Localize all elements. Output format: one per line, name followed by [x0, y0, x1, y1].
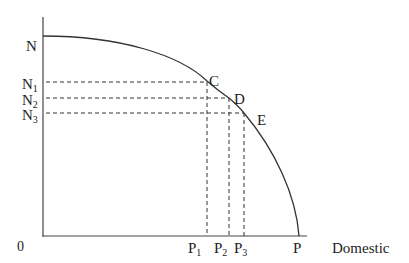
label-n: N: [26, 38, 37, 54]
origin-label: 0: [17, 239, 24, 254]
label-p3: P3: [234, 240, 247, 258]
label-p1: P1: [188, 240, 201, 258]
x-axis-title: Domestic: [332, 240, 390, 256]
point-e-label: E: [257, 112, 266, 128]
label-p2: P2: [214, 240, 227, 258]
point-d-label: D: [234, 91, 245, 107]
ppf-curve: [43, 36, 299, 236]
point-c-label: C: [209, 73, 219, 89]
ppf-diagram: N N1 N2 N3 C D E 0 P1 P2 P3 P Domestic: [0, 0, 409, 263]
label-p: P: [293, 240, 301, 256]
